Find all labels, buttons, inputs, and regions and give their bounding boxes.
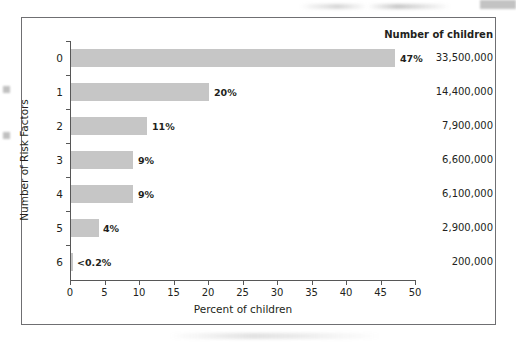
scan-artifact-top-right [480, 0, 516, 9]
scan-artifact-top-edge [300, 4, 450, 9]
scan-artifact-left-mark-2 [3, 132, 10, 139]
figure-frame [21, 17, 496, 325]
scan-artifact-left-mark-1 [3, 86, 10, 93]
scan-artifact-bottom-edge [170, 333, 380, 339]
